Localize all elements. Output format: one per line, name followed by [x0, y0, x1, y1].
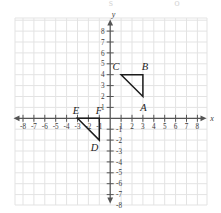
y-tick-label: 3	[101, 82, 105, 90]
vertex-label-d: D	[90, 142, 99, 153]
vertex-label-a: A	[139, 102, 147, 113]
y-tick-label: 5	[101, 60, 105, 68]
x-tick-label: 2	[130, 123, 134, 131]
scan-artifact-right: o	[174, 0, 180, 8]
y-tick-label: -1	[116, 126, 122, 134]
x-tick-label: 4	[152, 123, 156, 131]
y-tick-label: 8	[101, 28, 105, 36]
y-tick-label: -7	[116, 191, 122, 199]
x-tick-label: -3	[75, 123, 81, 131]
y-tick-label: -5	[116, 169, 122, 177]
vertex-label-f: F	[95, 105, 103, 116]
y-tick-label: 4	[101, 71, 105, 79]
coordinate-plane-figure: -8 -7 -6 -5 -4 -3 -2 -1 1 2 3 4 5 6 7 8 …	[0, 0, 221, 213]
x-tick-label: 3	[141, 123, 145, 131]
scan-artifact-left: s	[109, 0, 113, 8]
y-tick-label: 6	[101, 50, 105, 58]
x-tick-label: 5	[163, 123, 167, 131]
x-tick-label: -4	[64, 123, 70, 131]
y-tick-label: -3	[116, 148, 122, 156]
x-tick-label: -5	[53, 123, 59, 131]
vertex-label-c: C	[112, 61, 120, 72]
x-tick-label: -6	[42, 123, 48, 131]
y-tick-label: -6	[116, 180, 122, 188]
x-tick-label: 6	[174, 123, 178, 131]
vertex-label-b: B	[142, 61, 149, 72]
y-tick-label: -2	[116, 137, 122, 145]
y-tick-label: 7	[101, 39, 105, 47]
x-axis-label: x	[209, 114, 214, 123]
y-tick-label: -4	[116, 159, 122, 167]
y-tick-label: 2	[101, 93, 105, 101]
x-tick-label: 8	[196, 123, 200, 131]
y-axis-label: y	[111, 10, 116, 19]
x-tick-label: -8	[20, 123, 26, 131]
x-tick-label: -7	[31, 123, 37, 131]
y-tick-label: -8	[116, 202, 122, 210]
vertex-label-e: E	[72, 105, 80, 116]
x-tick-label: 7	[185, 123, 189, 131]
